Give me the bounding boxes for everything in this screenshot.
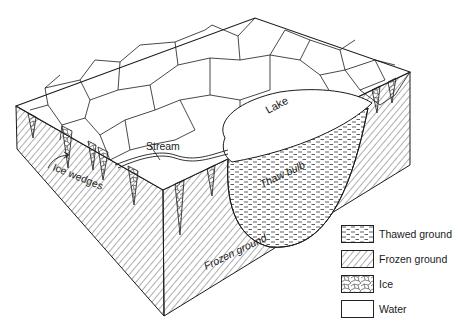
legend-item-frozen: Frozen ground <box>336 246 461 271</box>
legend-label: Thawed ground <box>379 228 452 240</box>
ice-swatch-icon <box>341 275 374 293</box>
stream-label: Stream <box>146 140 180 152</box>
frozen-ground-swatch-icon <box>341 250 374 268</box>
legend-label: Water <box>379 303 407 315</box>
water-swatch-icon <box>341 300 374 318</box>
legend-label: Ice <box>379 278 393 290</box>
legend: Thawed ground Frozen ground Ice Water <box>336 221 461 321</box>
thawed-ground-swatch-icon <box>341 225 374 243</box>
legend-item-ice: Ice <box>336 271 461 296</box>
legend-label: Frozen ground <box>379 253 447 265</box>
legend-item-thawed: Thawed ground <box>336 221 461 246</box>
legend-item-water: Water <box>336 296 461 321</box>
